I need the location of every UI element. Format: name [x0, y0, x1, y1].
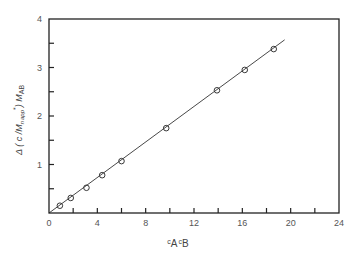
- y-tick-label: 1: [37, 160, 42, 170]
- chart-canvas: 0 4 8 12 16 20 24 1 2 3 4 cAcB Δ ( c /Mn…: [0, 0, 358, 256]
- plot-frame: [49, 19, 339, 213]
- x-tick-label: 8: [143, 218, 148, 228]
- x-tick-label: 16: [237, 218, 247, 228]
- y-tick-label: 3: [37, 63, 42, 73]
- x-tick-label: 24: [334, 218, 344, 228]
- fit-line: [49, 40, 285, 213]
- x-axis-label: cAcB: [167, 238, 189, 249]
- x-tick-labels: 0 4 8 12 16 20 24: [46, 218, 344, 228]
- x-tick-label: 0: [46, 218, 51, 228]
- y-tick-labels: 1 2 3 4: [37, 14, 42, 170]
- x-tick-label: 12: [189, 218, 199, 228]
- y-tick-label: 2: [37, 111, 42, 121]
- plot-area: [49, 40, 285, 213]
- y-tick-label: 4: [37, 14, 42, 24]
- y-axis-label: Δ ( c /Mnapp*) MAB: [12, 85, 25, 156]
- x-tick-label: 4: [95, 218, 100, 228]
- x-tick-label: 20: [286, 218, 296, 228]
